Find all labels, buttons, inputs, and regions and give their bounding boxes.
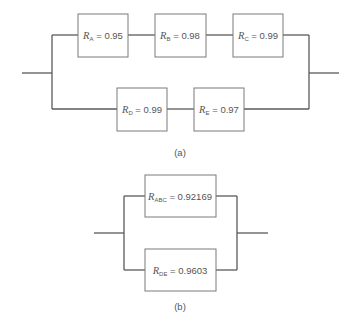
block-a-label: RA = 0.95 bbox=[83, 30, 123, 42]
block-abc-label: RABC = 0.92169 bbox=[148, 191, 212, 203]
caption-a: (a) bbox=[174, 147, 186, 158]
caption-b: (b) bbox=[174, 301, 186, 312]
block-de-label: RDE = 0.9603 bbox=[153, 265, 208, 277]
block-b-label: RB = 0.98 bbox=[160, 30, 200, 42]
block-d-label: RD = 0.99 bbox=[122, 104, 162, 116]
block-c-label: RC = 0.99 bbox=[238, 30, 278, 42]
block-e-label: RE = 0.97 bbox=[199, 104, 239, 116]
